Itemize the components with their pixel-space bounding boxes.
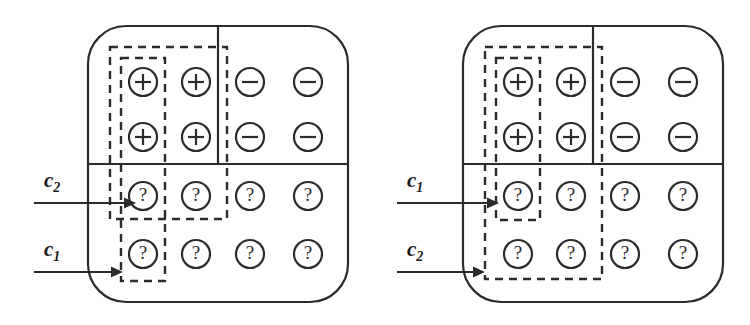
cell-r4c2: ?	[182, 240, 210, 268]
cell-r2c3	[236, 123, 264, 151]
cell-r4c3: ?	[611, 240, 639, 268]
question-mark-glyph: ?	[246, 242, 254, 263]
cell-r1c1	[504, 68, 532, 96]
question-mark-glyph: ?	[514, 184, 522, 205]
cell-r1c4	[669, 68, 697, 96]
cell-r1c1	[129, 68, 157, 96]
arrow-annotation-c1[interactable]: c1	[34, 237, 123, 278]
cell-r3c2: ?	[182, 182, 210, 210]
cell-r3c3: ?	[236, 182, 264, 210]
cell-r1c2	[557, 68, 585, 96]
cell-r2c4	[294, 123, 322, 151]
cell-r3c1: ?	[129, 182, 157, 210]
cell-r1c3	[236, 68, 264, 96]
grid-row-4: ? ? ? ?	[504, 240, 697, 268]
question-mark-glyph: ?	[246, 184, 254, 205]
version-space-figure: ? ? ? ? ?	[0, 0, 750, 325]
cell-r2c2	[182, 123, 210, 151]
arrow-head	[473, 267, 485, 278]
question-mark-glyph: ?	[304, 184, 312, 205]
cell-r1c2	[182, 68, 210, 96]
grid-row-4: ? ? ? ?	[129, 240, 322, 268]
cell-r4c4: ?	[669, 240, 697, 268]
cell-r1c4	[294, 68, 322, 96]
question-mark-glyph: ?	[567, 242, 575, 263]
panel-b-canvas: ? ? ? ? ?	[375, 0, 750, 325]
question-mark-glyph: ?	[567, 184, 575, 205]
question-mark-glyph: ?	[621, 242, 629, 263]
cell-r4c4: ?	[294, 240, 322, 268]
cell-r3c4: ?	[294, 182, 322, 210]
grid-row-1	[129, 68, 322, 96]
cell-r4c2: ?	[557, 240, 585, 268]
arrow-head	[487, 198, 499, 209]
cell-r2c2	[557, 123, 585, 151]
arrow-label-c2: c2	[407, 237, 423, 264]
grid-row-2	[129, 123, 322, 151]
arrow-label-c1: c1	[407, 168, 423, 195]
cell-r3c2: ?	[557, 182, 585, 210]
panel-a: ? ? ? ? ?	[0, 0, 375, 325]
cell-r1c3	[611, 68, 639, 96]
question-mark-glyph: ?	[139, 242, 147, 263]
grid-row-2	[504, 123, 697, 151]
question-mark-glyph: ?	[304, 242, 312, 263]
grid-row-3: ? ? ? ?	[504, 182, 697, 210]
arrow-annotation-c2[interactable]: c2	[34, 168, 136, 209]
cell-r3c4: ?	[669, 182, 697, 210]
arrow-annotation-c1[interactable]: c1	[397, 168, 499, 209]
cell-r4c1: ?	[504, 240, 532, 268]
cell-r3c1: ?	[504, 182, 532, 210]
question-mark-glyph: ?	[192, 184, 200, 205]
arrow-label-c2: c2	[44, 168, 60, 195]
question-mark-glyph: ?	[679, 184, 687, 205]
cell-r4c1: ?	[129, 240, 157, 268]
grid-row-1	[504, 68, 697, 96]
question-mark-glyph: ?	[192, 242, 200, 263]
question-mark-glyph: ?	[514, 242, 522, 263]
grid-row-3: ? ? ? ?	[129, 182, 322, 210]
question-mark-glyph: ?	[621, 184, 629, 205]
panel-b: ? ? ? ? ?	[375, 0, 750, 325]
cell-r2c1	[129, 123, 157, 151]
cell-r3c3: ?	[611, 182, 639, 210]
panel-a-canvas: ? ? ? ? ?	[0, 0, 375, 325]
cell-r2c4	[669, 123, 697, 151]
question-mark-glyph: ?	[139, 184, 147, 205]
arrow-label-c1: c1	[44, 237, 60, 264]
cell-r2c3	[611, 123, 639, 151]
arrow-annotation-c2[interactable]: c2	[397, 237, 485, 278]
cell-r4c3: ?	[236, 240, 264, 268]
cell-r2c1	[504, 123, 532, 151]
question-mark-glyph: ?	[679, 242, 687, 263]
